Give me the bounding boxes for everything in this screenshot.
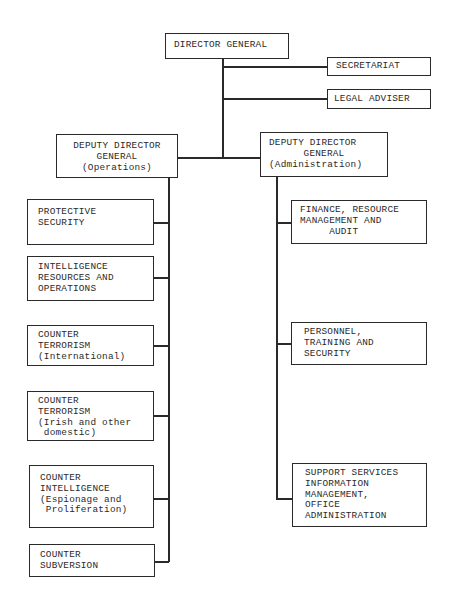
box-text: RESOURCES AND bbox=[38, 273, 143, 284]
counter-terrorism-irish-box: COUNTER TERRORISM (Irish and other domes… bbox=[27, 391, 154, 441]
box-text: GENERAL bbox=[269, 149, 379, 160]
deputy-director-administration-box: DEPUTY DIRECTOR GENERAL (Administration) bbox=[260, 132, 388, 177]
connector-admin-2 bbox=[276, 343, 291, 345]
box-text: GENERAL bbox=[61, 152, 173, 163]
connector-ops-4 bbox=[153, 415, 169, 417]
connector-ops-1 bbox=[153, 222, 169, 224]
counter-subversion-box: COUNTER SUBVERSION bbox=[29, 544, 155, 577]
connector-ops-5 bbox=[153, 498, 169, 500]
intelligence-resources-box: INTELLIGENCE RESOURCES AND OPERATIONS bbox=[27, 256, 154, 301]
trunk-operations bbox=[168, 177, 170, 562]
trunk-administration bbox=[276, 176, 278, 499]
connector-secretariat bbox=[222, 66, 327, 68]
connector-deputies bbox=[177, 157, 261, 159]
box-text: LEGAL ADVISER bbox=[334, 94, 424, 105]
deputy-director-operations-box: DEPUTY DIRECTOR GENERAL (Operations) bbox=[56, 134, 178, 178]
box-text: SECURITY bbox=[304, 349, 414, 360]
box-text: TRAINING AND bbox=[304, 338, 414, 349]
personnel-training-security-box: PERSONNEL, TRAINING AND SECURITY bbox=[291, 322, 427, 365]
box-text: domestic) bbox=[38, 428, 143, 439]
box-text: INTELLIGENCE bbox=[40, 484, 143, 495]
protective-security-box: PROTECTIVE SECURITY bbox=[27, 199, 154, 245]
support-services-box: SUPPORT SERVICES INFORMATION MANAGEMENT,… bbox=[292, 463, 427, 527]
connector-ops-6 bbox=[153, 561, 169, 563]
box-text: SECURITY bbox=[38, 218, 143, 229]
box-text: DIRECTOR GENERAL bbox=[174, 40, 280, 51]
box-text: SUBVERSION bbox=[40, 561, 144, 572]
counter-intelligence-box: COUNTER INTELLIGENCE (Espionage and Prol… bbox=[29, 465, 154, 528]
box-text: TERRORISM bbox=[38, 341, 143, 352]
box-text: (Administration) bbox=[269, 160, 379, 171]
box-text: SECRETARIAT bbox=[336, 61, 422, 72]
connector-ops-2 bbox=[153, 277, 169, 279]
box-text: MANAGEMENT AND bbox=[300, 216, 418, 227]
box-text: AUDIT bbox=[300, 227, 418, 238]
box-text: (International) bbox=[38, 352, 143, 363]
connector-legal-adviser bbox=[222, 98, 327, 100]
counter-terrorism-international-box: COUNTER TERRORISM (International) bbox=[27, 325, 154, 366]
box-text: OPERATIONS bbox=[38, 284, 143, 295]
trunk-director-general bbox=[222, 58, 224, 159]
box-text: Proliferation) bbox=[40, 505, 143, 516]
legal-adviser-box: LEGAL ADVISER bbox=[327, 89, 431, 109]
box-text: INFORMATION bbox=[305, 479, 414, 490]
secretariat-box: SECRETARIAT bbox=[327, 57, 431, 76]
connector-admin-1 bbox=[276, 222, 291, 224]
box-text: (Operations) bbox=[61, 163, 173, 174]
connector-admin-3 bbox=[276, 498, 292, 500]
connector-ops-3 bbox=[153, 345, 169, 347]
box-text: ADMINISTRATION bbox=[305, 511, 414, 522]
director-general-box: DIRECTOR GENERAL bbox=[165, 33, 289, 59]
box-text: TERRORISM bbox=[38, 407, 143, 418]
finance-resource-management-box: FINANCE, RESOURCE MANAGEMENT AND AUDIT bbox=[291, 200, 427, 244]
